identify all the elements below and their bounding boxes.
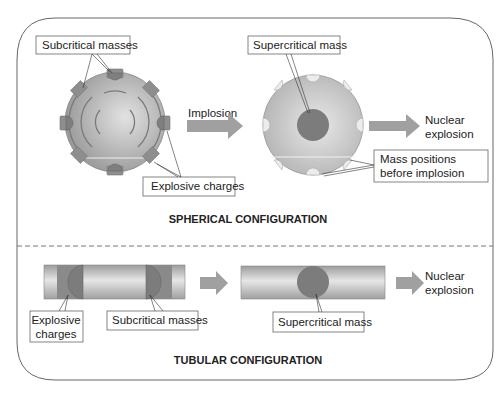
label-explosive-charges-tube: Explosive charges	[30, 295, 83, 342]
sphere-before-implosion	[60, 69, 170, 175]
implosion-diagram: Subcritical masses Explosive charges Imp…	[0, 0, 497, 395]
sphere-after-implosion	[263, 75, 363, 175]
spherical-section-title: SPHERICAL CONFIGURATION	[169, 213, 328, 225]
diagram-frame	[17, 18, 493, 380]
svg-text:explosion: explosion	[425, 284, 474, 296]
svg-text:Supercritical mass: Supercritical mass	[278, 316, 372, 328]
tube-after	[241, 266, 385, 299]
svg-text:Nuclear: Nuclear	[425, 114, 465, 126]
label-supercritical-mass-tube: Supercritical mass	[273, 294, 372, 332]
svg-text:Supercritical mass: Supercritical mass	[253, 39, 347, 51]
tubular-section-title: TUBULAR CONFIGURATION	[174, 354, 322, 366]
supercritical-core	[297, 109, 329, 141]
svg-text:Mass positions: Mass positions	[380, 153, 456, 165]
label-subcritical-masses-tube: Subcritical masses	[107, 295, 208, 330]
svg-text:explosion: explosion	[425, 128, 474, 140]
svg-text:Subcritical masses: Subcritical masses	[112, 314, 208, 326]
svg-text:Subcritical masses: Subcritical masses	[42, 39, 138, 51]
svg-text:Explosive charges: Explosive charges	[151, 180, 245, 192]
svg-text:Nuclear: Nuclear	[425, 270, 465, 282]
svg-text:Explosive: Explosive	[31, 314, 80, 326]
tube-before	[44, 265, 185, 299]
tube-arrow	[200, 271, 228, 295]
svg-text:before implosion: before implosion	[380, 167, 464, 179]
explosion-arrow-spherical: Nuclear explosion	[369, 114, 474, 140]
implosion-arrow: Implosion	[187, 107, 243, 139]
explosion-arrow-tubular: Nuclear explosion	[396, 270, 474, 296]
supercritical-mass-tube	[297, 266, 329, 298]
svg-text:charges: charges	[36, 328, 77, 340]
